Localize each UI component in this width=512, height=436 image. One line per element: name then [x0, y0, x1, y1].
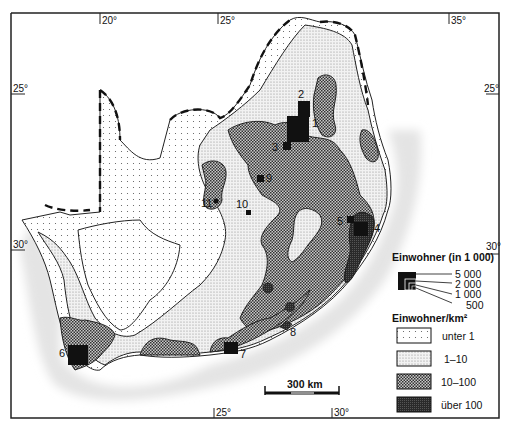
- population-density-map: 2 1 3 4 5 6 7 8 9 10 11 20° 25° 35° 25° …: [0, 0, 512, 436]
- legend: Einwohner (in 1 000) 5 000 2 000 1 000 5…: [392, 251, 494, 412]
- city-label-7: 7: [240, 348, 246, 360]
- city-label-2: 2: [298, 88, 304, 100]
- legend-size-500: 500: [466, 299, 484, 311]
- city-5-marker: [347, 216, 354, 223]
- legend-square-500: [412, 286, 416, 290]
- city-2-marker: [298, 101, 310, 117]
- city-9-marker: [257, 175, 264, 182]
- city-3-marker: [283, 142, 291, 150]
- legend-label-ueber-100: über 100: [441, 399, 483, 411]
- lon-label-top-25: 25°: [220, 15, 235, 26]
- city-label-8: 8: [290, 326, 296, 338]
- lat-label-left-25: 25°: [13, 83, 28, 94]
- legend-swatch-ueber-100: [397, 397, 431, 412]
- lat-label-right-25: 25°: [484, 83, 499, 94]
- city-label-10: 10: [236, 198, 248, 210]
- city-label-11: 11: [201, 197, 212, 209]
- legend-label-1-10: 1–10: [444, 353, 468, 365]
- city-label-4: 4: [374, 222, 380, 234]
- scale-bar-label: 300 km: [287, 378, 323, 390]
- city-label-6: 6: [59, 347, 65, 359]
- legend-population-title: Einwohner (in 1 000): [392, 251, 494, 263]
- city-11-marker: [214, 199, 219, 204]
- lon-label-bottom-30: 30°: [334, 407, 349, 418]
- legend-label-unter-1: unter 1: [442, 330, 475, 342]
- zone-ueber-100-blob-b: [286, 303, 295, 312]
- lat-label-top-20: 20°: [102, 15, 117, 26]
- city-label-3: 3: [272, 141, 278, 153]
- lon-label-bottom-25: 25°: [216, 407, 231, 418]
- city-1-marker: [287, 116, 309, 142]
- border-namibia-south: [45, 205, 90, 211]
- city-label-5: 5: [337, 215, 343, 227]
- city-10-marker: [246, 210, 251, 215]
- city-4-marker: [354, 222, 368, 236]
- city-label-1: 1: [312, 117, 318, 129]
- legend-label-10-100: 10–100: [441, 376, 476, 388]
- legend-swatch-10-100: [397, 374, 431, 389]
- legend-density-title: Einwohner/km²: [392, 312, 468, 324]
- scale-bar: 300 km: [265, 378, 339, 395]
- city-label-9: 9: [266, 172, 272, 184]
- lat-label-left-30: 30°: [13, 239, 28, 250]
- lon-label-top-35: 35°: [451, 15, 466, 26]
- city-6-marker: [68, 345, 88, 365]
- legend-swatch-1-10: [397, 351, 431, 366]
- city-7-marker: [224, 342, 238, 354]
- legend-swatch-unter-1: [397, 328, 431, 343]
- zone-ueber-100-blob-a: [263, 283, 273, 293]
